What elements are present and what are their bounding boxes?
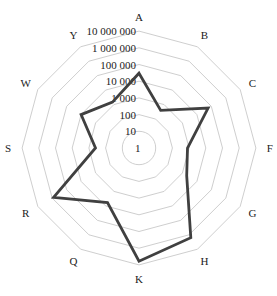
- category-label-w: W: [20, 77, 31, 89]
- tick-label: 100 000: [100, 59, 136, 71]
- category-label-b: B: [201, 29, 208, 41]
- category-label-r: R: [22, 207, 30, 219]
- category-label-y: Y: [70, 29, 78, 41]
- tick-label: 100: [120, 109, 137, 121]
- tick-label: 10 000 000: [87, 25, 137, 37]
- tick-label: 1: [135, 142, 141, 154]
- category-label-a: A: [135, 11, 143, 23]
- tick-label: 1 000 000: [92, 42, 137, 54]
- tick-label: 10: [125, 125, 137, 137]
- category-label-k: K: [135, 273, 143, 285]
- category-label-g: G: [248, 207, 256, 219]
- category-label-q: Q: [70, 255, 78, 267]
- category-label-s: S: [5, 142, 11, 154]
- category-label-h: H: [200, 255, 208, 267]
- category-label-f: F: [267, 142, 273, 154]
- category-label-c: C: [249, 77, 256, 89]
- radial-tick-labels: 1101001 00010 000100 0001 000 00010 000 …: [87, 25, 141, 154]
- radar-chart: 1101001 00010 000100 0001 000 00010 000 …: [0, 0, 277, 296]
